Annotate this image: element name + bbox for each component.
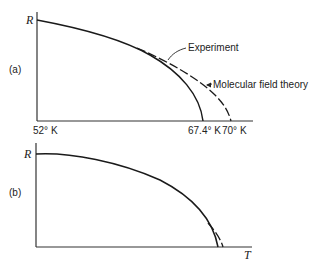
experiment-leader-line: [168, 48, 186, 60]
tick-70k: 70° K: [222, 125, 247, 136]
figure: (a) R Experiment Molecular field theory …: [0, 0, 313, 269]
experiment-curve: [37, 20, 203, 121]
tick-52k: 52° K: [33, 125, 58, 136]
panel-b-label: (b): [9, 187, 21, 198]
legend-experiment: Experiment: [188, 42, 239, 53]
theory-arrow-icon: [206, 83, 211, 88]
panel-a: (a) R Experiment Molecular field theory …: [9, 12, 308, 136]
tick-67-4k: 67.4° K: [188, 125, 221, 136]
experiment-curve-b: [36, 154, 218, 247]
panel-a-label: (a): [9, 64, 21, 75]
panel-b-y-axis-label: R: [23, 147, 32, 161]
panel-a-y-axis-label: R: [25, 13, 34, 27]
panel-b: (b) R T: [9, 143, 252, 262]
legend-theory: Molecular field theory: [213, 79, 308, 90]
panel-b-x-axis-label: T: [244, 248, 252, 262]
